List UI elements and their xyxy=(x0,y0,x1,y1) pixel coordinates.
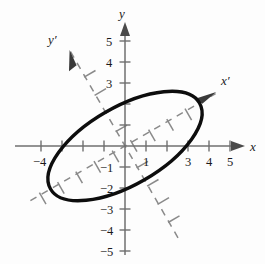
figure-container: x′ y′ xyxy=(0,0,265,264)
x-axis-label: x xyxy=(249,139,256,154)
y-axis-arrowhead xyxy=(120,22,130,36)
y-prime-arrowhead xyxy=(69,50,77,71)
x-tick-label-4: 4 xyxy=(206,155,213,169)
y-tick-label-neg5: −5 xyxy=(100,245,113,259)
x-tick-label-5: 5 xyxy=(227,155,233,169)
y-tick-label-4: 4 xyxy=(106,56,113,70)
y-tick-label-5: 5 xyxy=(106,35,112,49)
y-tick-label-3: 3 xyxy=(106,77,112,91)
x-prime-axis-label: x′ xyxy=(220,73,230,88)
y-prime-axis-label: y′ xyxy=(46,32,57,47)
x-tick-label-1: 1 xyxy=(143,155,149,169)
x-prime-axis-group: x′ xyxy=(30,73,229,204)
y-tick-label-neg1: −1 xyxy=(100,161,113,175)
y-axis-group: y 5 4 3 −1 −2 −3 −4 −5 xyxy=(100,6,131,259)
y-tick-label-neg4: −4 xyxy=(100,224,114,238)
x-axis-arrowhead xyxy=(231,141,245,151)
y-axis-label: y xyxy=(117,6,125,21)
y-tick-label-neg3: −3 xyxy=(100,203,113,217)
x-tick-label-neg4: −4 xyxy=(33,155,47,169)
x-tick-label-3: 3 xyxy=(185,155,191,169)
x-prime-tick-marks xyxy=(39,109,191,204)
coordinate-plane-figure: x′ y′ xyxy=(0,0,265,264)
